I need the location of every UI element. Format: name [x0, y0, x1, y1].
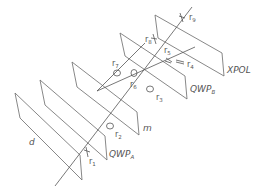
label-d: d [29, 137, 35, 147]
label-r6: r6 [130, 80, 137, 90]
label-r3: r3 [156, 93, 163, 103]
marker-r6 [131, 70, 137, 77]
marker-r8 [151, 34, 157, 44]
label-r1: r1 [89, 157, 96, 167]
marker-r3 [147, 86, 154, 92]
label-xpol: XPOL [226, 65, 251, 75]
optical-setup-diagram: d QWPA m QWPB XPOL r1 r2 r3 r4 r5 r6 r7 … [0, 0, 260, 194]
beam-main [55, 7, 192, 186]
label-r9: r9 [189, 13, 196, 23]
label-m: m [143, 123, 152, 133]
label-r7: r7 [112, 59, 119, 69]
plane-d [15, 93, 82, 180]
marker-r2 [107, 123, 114, 129]
label-r2: r2 [115, 130, 122, 140]
marker-r1 [84, 147, 90, 157]
label-r4: r4 [187, 60, 194, 70]
beam-return [97, 43, 145, 91]
label-r5: r5 [164, 46, 171, 56]
label-r8: r8 [145, 35, 152, 45]
label-qwp-a: QWPA [109, 149, 134, 160]
plane-m [72, 62, 139, 135]
label-qwp-b: QWPB [190, 84, 215, 95]
beam-reflected [97, 47, 195, 91]
marker-r4 [176, 60, 184, 64]
